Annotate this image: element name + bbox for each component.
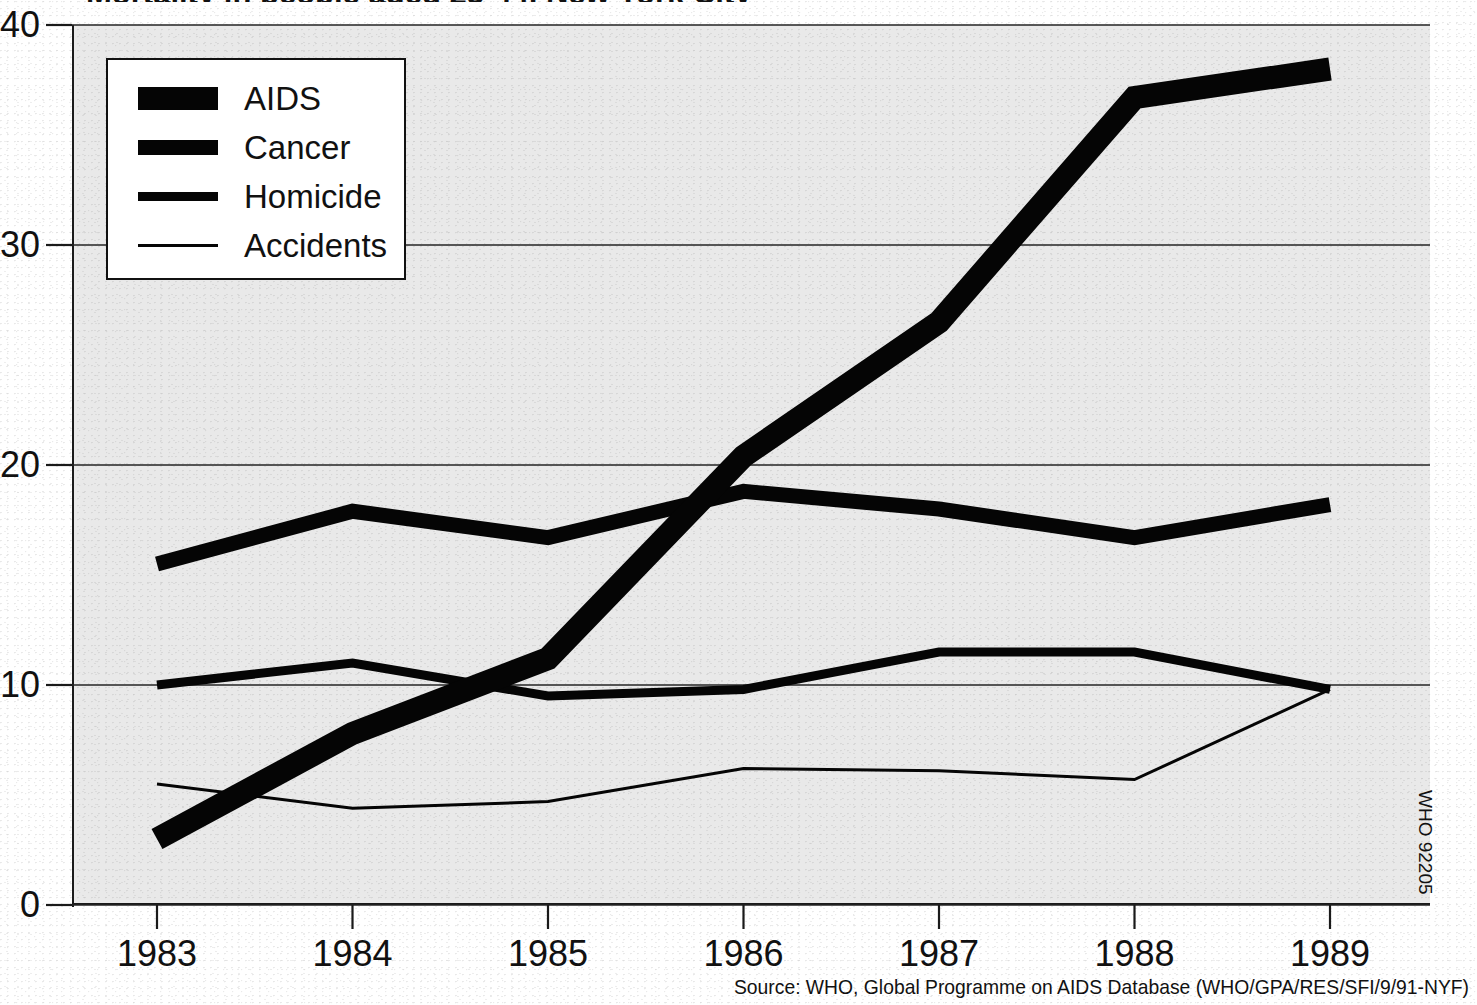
legend-item-label: AIDS bbox=[244, 82, 321, 115]
thin-bar-icon bbox=[138, 192, 218, 201]
chart-page: Mortality in people aged 25-44, New York… bbox=[0, 0, 1477, 1005]
legend-item-homicide: Homicide bbox=[108, 172, 404, 221]
legend-swatch-wrap bbox=[138, 87, 222, 110]
medium-bar-icon bbox=[138, 140, 218, 155]
hairline-bar-icon bbox=[138, 244, 218, 247]
x-tick-label: 1985 bbox=[508, 933, 588, 975]
y-tick-label: 20 bbox=[0, 444, 40, 486]
x-tick-label: 1986 bbox=[703, 933, 783, 975]
y-tick-label: 0 bbox=[0, 884, 40, 926]
legend-item-aids: AIDS bbox=[108, 74, 404, 123]
series-line-homicide bbox=[157, 652, 1330, 696]
y-tick-label: 40 bbox=[0, 4, 40, 46]
x-tick-label: 1983 bbox=[117, 933, 197, 975]
who-publication-code: WHO 92205 bbox=[1414, 790, 1436, 895]
legend-item-label: Accidents bbox=[244, 229, 387, 262]
x-tick-label: 1987 bbox=[899, 933, 979, 975]
y-tick-label: 30 bbox=[0, 224, 40, 266]
y-tick-label: 10 bbox=[0, 664, 40, 706]
legend-swatch-wrap bbox=[138, 140, 222, 155]
source-note: Source: WHO, Global Programme on AIDS Da… bbox=[734, 975, 1469, 999]
x-tick-label: 1989 bbox=[1290, 933, 1370, 975]
legend-swatch-wrap bbox=[138, 244, 222, 247]
legend: AIDS Cancer Homicide Accidents bbox=[106, 58, 406, 280]
series-line-cancer bbox=[157, 491, 1330, 564]
thick-bar-icon bbox=[138, 87, 218, 110]
x-tick-label: 1984 bbox=[312, 933, 392, 975]
legend-item-label: Homicide bbox=[244, 180, 382, 213]
legend-item-accidents: Accidents bbox=[108, 221, 404, 270]
legend-item-label: Cancer bbox=[244, 131, 350, 164]
legend-swatch-wrap bbox=[138, 192, 222, 201]
legend-item-cancer: Cancer bbox=[108, 123, 404, 172]
x-tick-label: 1988 bbox=[1094, 933, 1174, 975]
